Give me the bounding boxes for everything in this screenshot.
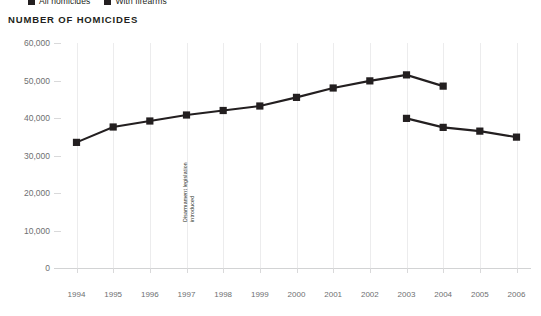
annotation-line-2: introduced: [189, 196, 195, 222]
data-point-marker: [220, 107, 227, 114]
series-line: [407, 118, 517, 137]
data-point-marker: [73, 139, 80, 146]
data-point-marker: [256, 102, 263, 109]
data-point-marker: [146, 117, 153, 124]
annotation-disarmament-legislation: Disarmament legislation introduced: [176, 150, 192, 260]
data-point-marker: [366, 77, 373, 84]
series-with-firearms: [403, 115, 520, 141]
data-point-marker: [440, 83, 447, 90]
data-point-marker: [330, 84, 337, 91]
series-all-homicides: [73, 71, 447, 146]
data-point-marker: [513, 134, 520, 141]
data-point-marker: [476, 128, 483, 135]
data-point-marker: [403, 71, 410, 78]
series-container: [0, 0, 541, 316]
data-point-marker: [403, 115, 410, 122]
data-point-marker: [183, 111, 190, 118]
chart-plot-wrapper: 60,00050,00040,00030,00020,00010,0000 19…: [0, 0, 541, 316]
data-point-marker: [440, 124, 447, 131]
data-point-marker: [293, 94, 300, 101]
annotation-line-1: Disarmament legislation: [182, 162, 188, 222]
data-point-marker: [110, 123, 117, 130]
